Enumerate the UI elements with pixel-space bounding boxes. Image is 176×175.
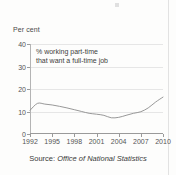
x-tick-mark xyxy=(97,134,98,137)
x-tick-label: 2004 xyxy=(111,138,127,145)
y-tick-label: 30 xyxy=(18,63,26,70)
x-tick-label: 1992 xyxy=(22,138,38,145)
x-tick-mark xyxy=(52,134,53,137)
y-tick-label: 20 xyxy=(18,86,26,93)
x-tick-mark xyxy=(163,134,164,137)
x-tick-label: 2001 xyxy=(89,138,105,145)
y-tick-label: 10 xyxy=(18,108,26,115)
x-tick-label: 1995 xyxy=(44,138,60,145)
source-organisation: Office of National Statistics xyxy=(57,154,147,163)
x-tick-mark xyxy=(119,134,120,137)
x-tick-label: 2010 xyxy=(155,138,171,145)
x-tick-label: 2007 xyxy=(133,138,149,145)
x-tick-mark xyxy=(30,134,31,137)
series-annotation: % working part-time that want a full-tim… xyxy=(36,47,108,65)
y-axis-title: Per cent xyxy=(13,26,40,33)
scan-artifact xyxy=(115,3,119,7)
y-tick-label: 0 xyxy=(22,131,26,138)
x-tick-mark xyxy=(141,134,142,137)
chart-figure: Per cent 010203040 199219951998200120042… xyxy=(0,0,176,175)
source-caption: Source: Office of National Statistics xyxy=(0,154,176,163)
source-prefix: Source: xyxy=(29,154,55,163)
figure-right-border xyxy=(168,0,169,175)
annotation-line-2: that want a full-time job xyxy=(36,56,108,65)
y-tick-label: 40 xyxy=(18,41,26,48)
x-tick-label: 1998 xyxy=(67,138,83,145)
annotation-line-1: % working part-time xyxy=(36,47,108,56)
x-tick-mark xyxy=(74,134,75,137)
